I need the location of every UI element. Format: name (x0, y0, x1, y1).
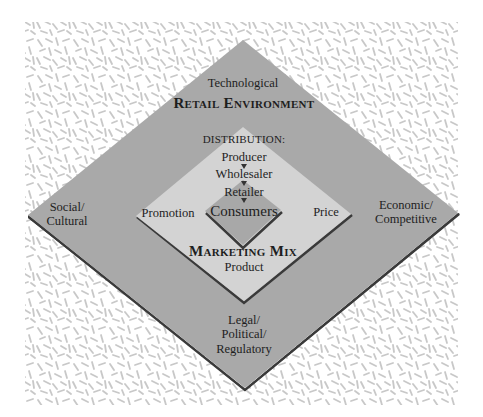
label-consumers: Consumers (210, 203, 278, 220)
label-promotion: Promotion (142, 206, 195, 220)
label-economic-competitive: Economic/ Competitive (375, 198, 437, 227)
label-legal-political-regulatory: Legal/ Political/ Regulatory (216, 313, 272, 356)
outer-title-retail-environment: Retail Environment (173, 95, 314, 112)
retail-environment-diagram: Technological Retail Environment Social/… (0, 0, 483, 417)
label-product: Product (225, 260, 264, 274)
label-price: Price (313, 205, 339, 219)
label-social-cultural: Social/ Cultural (47, 200, 88, 229)
label-regulatory: Regulatory (216, 342, 272, 356)
label-competitive: Competitive (375, 212, 437, 226)
label-political: Political/ (216, 327, 272, 341)
label-social: Social/ (47, 200, 88, 214)
middle-title-marketing-mix: Marketing Mix (189, 243, 297, 260)
distribution-step-producer: Producer (221, 150, 266, 164)
label-legal: Legal/ (216, 313, 272, 327)
label-economic: Economic/ (375, 198, 437, 212)
label-cultural: Cultural (47, 214, 88, 228)
distribution-heading: DISTRIBUTION: (203, 133, 286, 146)
distribution-step-wholesaler: Wholesaler (216, 167, 273, 181)
label-technological: Technological (208, 76, 279, 90)
